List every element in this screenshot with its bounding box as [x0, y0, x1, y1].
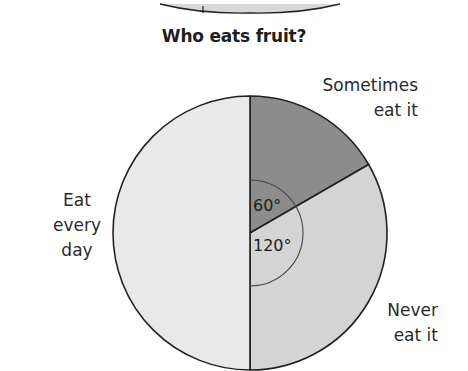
previous-chart-remnant — [160, 4, 340, 13]
label-line: day — [44, 238, 110, 263]
slice-eat-every-day — [113, 96, 250, 370]
label-line: Sometimes — [300, 73, 418, 98]
angle-label-60: 60° — [253, 196, 281, 215]
pie-chart-figure: Who eats fruit? Sometimes eat it Never e… — [0, 0, 468, 371]
angle-label-120: 120° — [253, 236, 292, 255]
label-line: Eat — [44, 188, 110, 213]
label-line: eat it — [300, 98, 418, 123]
label-sometimes-eat-it: Sometimes eat it — [300, 73, 418, 123]
label-line: every — [44, 213, 110, 238]
label-line: Never — [360, 298, 438, 323]
chart-title: Who eats fruit? — [0, 26, 468, 46]
label-line: eat it — [360, 323, 438, 348]
label-eat-every-day: Eat every day — [44, 188, 110, 263]
label-never-eat-it: Never eat it — [360, 298, 438, 348]
